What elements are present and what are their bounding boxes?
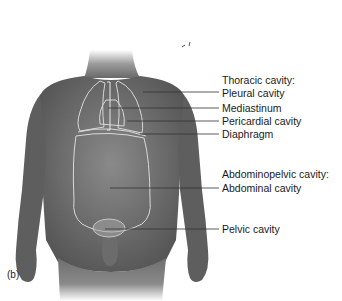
- panel-label: (b): [7, 269, 19, 280]
- label-diaphragm: Diaphragm: [222, 128, 273, 140]
- stray-marks: [182, 42, 190, 47]
- label-pelvic-cavity: Pelvic cavity: [222, 223, 280, 235]
- label-pleural-cavity: Pleural cavity: [222, 87, 284, 99]
- pelvic-cavity: [93, 219, 125, 237]
- left-arm: [16, 95, 46, 282]
- neck: [84, 50, 140, 78]
- torso-illustration: [0, 0, 342, 301]
- label-abdominal-cavity: Abdominal cavity: [222, 182, 301, 194]
- label-mediastinum: Mediastinum: [222, 102, 282, 114]
- abdominopelvic-cavity-heading: Abdominopelvic cavity:: [222, 168, 329, 180]
- thoracic-cavity-heading: Thoracic cavity:: [222, 74, 295, 86]
- right-arm: [178, 95, 208, 282]
- label-pericardial-cavity: Pericardial cavity: [222, 115, 301, 127]
- body-cavities-diagram: Thoracic cavity: Pleural cavity Mediasti…: [0, 0, 342, 301]
